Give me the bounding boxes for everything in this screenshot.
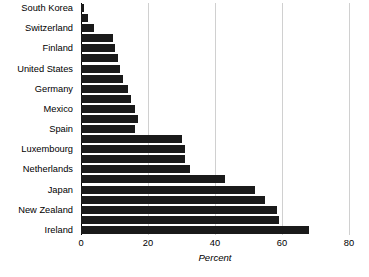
y-axis-label: United States [17,64,73,74]
x-tick-label: 20 [143,238,153,248]
bar [81,54,118,62]
bar-row [81,53,349,63]
bar-row [81,124,349,134]
bar [81,105,135,113]
bar-row [81,84,349,94]
y-axis-category-labels: South KoreaSwitzerlandFinlandUnited Stat… [0,3,77,235]
bar-row [81,215,349,225]
bar-row [81,13,349,23]
bar-row [81,154,349,164]
bar [81,155,185,163]
bar [81,125,135,133]
bar-row [81,134,349,144]
bar [81,24,94,32]
bar [81,186,255,194]
x-tick-label: 0 [78,238,83,248]
bar [81,4,84,12]
bar [81,34,113,42]
bar-row [81,185,349,195]
y-axis-label: New Zealand [18,205,73,215]
x-axis-title: Percent [81,252,349,263]
x-tick-label: 40 [210,238,220,248]
bar [81,135,182,143]
bar-series [81,3,349,235]
bar-row [81,94,349,104]
bar [81,75,123,83]
bar-row [81,33,349,43]
bar-row [81,164,349,174]
x-tick-label: 80 [344,238,354,248]
bar-row [81,225,349,235]
y-axis-label: Luxembourg [21,144,73,154]
y-axis-label: Switzerland [25,23,73,33]
y-axis-label: Netherlands [23,164,73,174]
bar [81,145,185,153]
plot-area [81,3,349,235]
bar-row [81,64,349,74]
bar-row [81,114,349,124]
bar [81,115,138,123]
bar-row [81,205,349,215]
y-axis-label: South Korea [21,3,73,13]
y-axis-label: Spain [49,124,73,134]
bar-row [81,144,349,154]
bar-row [81,74,349,84]
bar-chart: South KoreaSwitzerlandFinlandUnited Stat… [0,0,369,277]
y-axis-label: Mexico [44,104,73,114]
bar [81,165,190,173]
y-axis-label: Finland [43,43,74,53]
bar-row [81,23,349,33]
bar [81,206,277,214]
y-axis-label: Ireland [45,225,73,235]
bar [81,14,88,22]
bar-row [81,195,349,205]
bar [81,226,309,234]
bar-row [81,104,349,114]
bar [81,95,131,103]
gridline-80 [349,3,350,235]
bar [81,44,115,52]
x-tick-label: 60 [277,238,287,248]
y-axis-label: Germany [35,84,73,94]
bar [81,196,265,204]
bar-row [81,43,349,53]
bar [81,65,120,73]
y-axis-label: Japan [48,185,73,195]
bar [81,216,279,224]
bar [81,85,128,93]
bar-row [81,174,349,184]
bar-row [81,3,349,13]
bar [81,175,225,183]
